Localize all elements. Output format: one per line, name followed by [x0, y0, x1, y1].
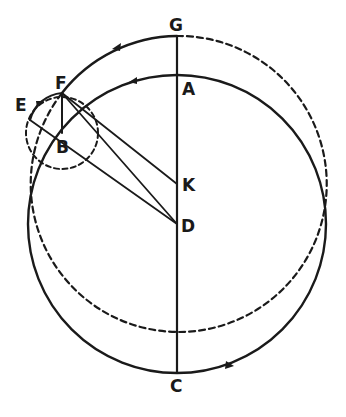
label-c: C: [170, 376, 182, 396]
label-d: D: [181, 216, 195, 236]
label-k: K: [182, 175, 196, 195]
arrow-icon-small-arc: [36, 101, 44, 108]
line-e-d: [30, 120, 177, 224]
arrow-icon-outer-arc: [112, 43, 121, 51]
label-f: F: [55, 73, 67, 93]
label-b: B: [56, 137, 69, 157]
line-f-d: [62, 93, 177, 224]
label-a: A: [182, 79, 196, 99]
label-g: G: [169, 15, 183, 35]
line-f-k: [62, 93, 177, 184]
label-e: E: [15, 95, 27, 115]
geometry-diagram: G A F E B K D C: [0, 0, 346, 417]
dashed-circle-k: [31, 36, 327, 332]
